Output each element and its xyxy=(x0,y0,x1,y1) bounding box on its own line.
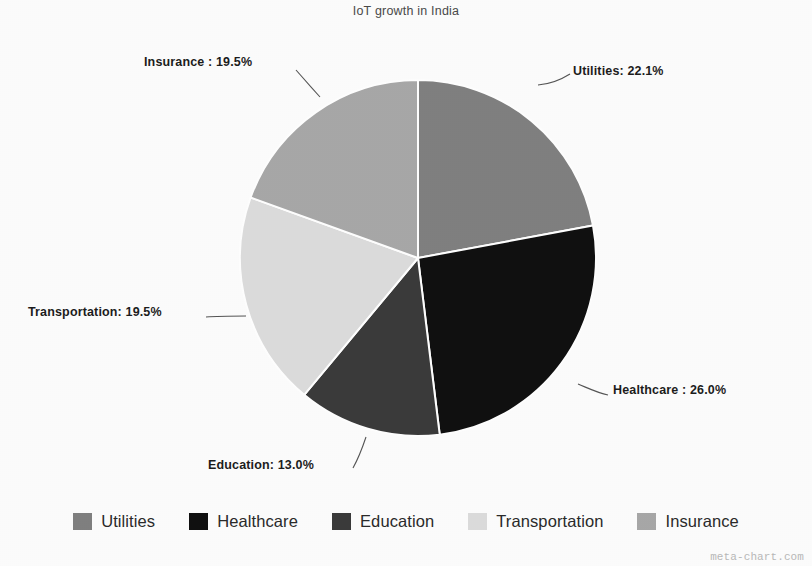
legend-item-healthcare[interactable]: Healthcare xyxy=(189,512,298,531)
pie-slice-group xyxy=(240,80,596,436)
pie-graphic xyxy=(0,0,812,566)
leader-line-transportation xyxy=(206,316,246,317)
leader-line-insurance xyxy=(296,70,320,97)
chart-legend: UtilitiesHealthcareEducationTransportati… xyxy=(0,512,812,531)
slice-label-insurance: Insurance : 19.5% xyxy=(144,55,252,69)
slice-label-healthcare: Healthcare : 26.0% xyxy=(613,383,726,397)
legend-item-label: Insurance xyxy=(665,512,738,531)
legend-item-label: Healthcare xyxy=(217,512,298,531)
leader-line-utilities xyxy=(538,74,570,85)
pie-slice-healthcare[interactable] xyxy=(418,226,596,435)
leader-line-education xyxy=(353,437,366,468)
legend-swatch-icon xyxy=(637,513,656,530)
watermark: meta-chart.com xyxy=(710,551,804,563)
legend-item-label: Education xyxy=(360,512,434,531)
legend-swatch-icon xyxy=(73,513,92,530)
legend-item-label: Transportation xyxy=(496,512,603,531)
legend-swatch-icon xyxy=(468,513,487,530)
legend-swatch-icon xyxy=(332,513,351,530)
legend-item-education[interactable]: Education xyxy=(332,512,434,531)
pie-chart-canvas: IoT growth in India Utilities: 22.1% Hea… xyxy=(0,0,812,566)
slice-label-transportation: Transportation: 19.5% xyxy=(28,305,162,319)
legend-item-transportation[interactable]: Transportation xyxy=(468,512,603,531)
slice-label-utilities: Utilities: 22.1% xyxy=(573,64,664,78)
legend-swatch-icon xyxy=(189,513,208,530)
slice-label-education: Education: 13.0% xyxy=(208,458,314,472)
legend-item-insurance[interactable]: Insurance xyxy=(637,512,738,531)
legend-item-label: Utilities xyxy=(101,512,155,531)
leader-line-healthcare xyxy=(578,384,608,395)
legend-item-utilities[interactable]: Utilities xyxy=(73,512,155,531)
